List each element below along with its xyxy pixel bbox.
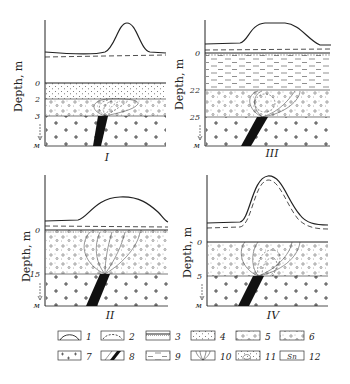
svg-text:7: 7 [86,352,92,362]
y-axis-label: Depth, m [20,230,33,282]
svg-text:2: 2 [128,332,135,342]
svg-text:6: 6 [309,332,315,342]
panel-I: 0 2 3 м Depth, m I [12,20,166,164]
legend-item-7: 7 [58,351,92,362]
y-axis-label: Depth, m [173,58,186,110]
panel-label: II [105,309,115,322]
legend-item-8: 8 [101,351,135,362]
depth-tick: 0 [195,49,200,58]
svg-text:5: 5 [265,332,271,342]
panel-label: I [104,151,110,164]
legend-item-3: 3 [146,331,181,342]
legend: 1 2 3 4 5 6 7 [58,331,321,362]
svg-text:9: 9 [175,352,181,362]
svg-text:1: 1 [86,332,92,342]
depth-tick: 0 [35,79,40,88]
panel-III: 0 22 25 м Depth, m III [173,20,331,160]
depth-unit: м [33,141,40,150]
svg-text:8: 8 [129,352,135,362]
legend-item-2: 2 [101,331,135,342]
legend-item-4: 4 [191,331,226,342]
svg-text:3: 3 [175,332,181,342]
svg-text:Sn: Sn [287,353,297,361]
panel-label: III [264,147,279,160]
panel-IV: 0 5 м Depth, m IV [181,175,328,322]
legend-item-1: 1 [58,331,92,342]
panel-II: 0 15 м Depth, m II [20,175,168,322]
legend-item-5: 5 [236,331,271,342]
depth-tick: 0 [35,226,40,235]
legend-item-9: 9 [146,351,181,362]
depth-tick: 22 [189,86,200,95]
svg-text:11: 11 [265,352,276,362]
depth-tick: 5 [197,272,202,281]
y-axis-label: Depth, m [12,60,25,112]
depth-unit: м [33,301,40,310]
legend-item-6: 6 [280,331,315,342]
depth-tick: 0 [197,238,202,247]
depth-tick: 3 [35,112,40,121]
svg-text:10: 10 [220,352,232,362]
panel-label: IV [266,309,280,322]
depth-unit: м [193,141,200,150]
legend-item-11: 11 [236,351,276,362]
svg-text:12: 12 [309,352,321,362]
geochemical-halo-figure: 0 2 3 м Depth, m I 0 22 25 м [0,0,350,384]
depth-unit: м [195,301,202,310]
legend-item-12: Sn 12 [280,351,321,362]
y-axis-label: Depth, m [181,226,194,278]
depth-tick: 25 [189,113,200,122]
legend-item-10: 10 [191,351,232,362]
svg-text:4: 4 [219,332,226,342]
depth-tick: 2 [34,95,40,104]
